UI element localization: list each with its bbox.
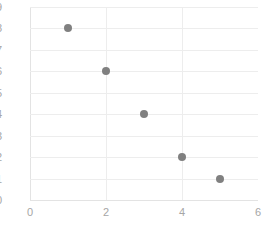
y-tick-label: 2 (0, 152, 2, 163)
x-axis-line (30, 200, 258, 201)
y-tick-label: 3 (0, 130, 2, 141)
gridline-horizontal (30, 7, 258, 8)
x-tick-label: 6 (246, 207, 265, 218)
data-point[interactable] (178, 153, 186, 161)
y-tick-label: 1 (0, 173, 2, 184)
data-point[interactable] (140, 110, 148, 118)
y-tick-label: 0 (0, 195, 2, 206)
gridline-horizontal (30, 50, 258, 51)
gridline-horizontal (30, 71, 258, 72)
data-point[interactable] (216, 175, 224, 183)
y-tick-label: 5 (0, 87, 2, 98)
y-tick-label: 4 (0, 109, 2, 120)
gridline-vertical (106, 7, 107, 200)
gridline-horizontal (30, 136, 258, 137)
data-point[interactable] (102, 67, 110, 75)
scatter-chart: 0123456789 0246 (0, 0, 265, 225)
y-tick-label: 9 (0, 2, 2, 13)
plot-area (30, 7, 258, 200)
y-tick-label: 7 (0, 44, 2, 55)
x-tick-label: 2 (94, 207, 118, 218)
y-tick-label: 8 (0, 23, 2, 34)
gridline-horizontal (30, 157, 258, 158)
data-point[interactable] (64, 24, 72, 32)
gridline-vertical (182, 7, 183, 200)
y-tick-label: 6 (0, 66, 2, 77)
x-tick-label: 4 (170, 207, 194, 218)
gridline-horizontal (30, 93, 258, 94)
x-tick-label: 0 (18, 207, 42, 218)
